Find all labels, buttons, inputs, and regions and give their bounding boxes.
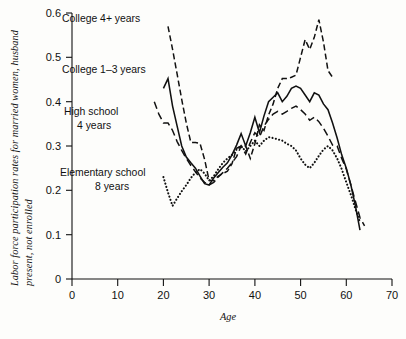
chart-container: Labor force participation rates for marr… <box>0 0 406 339</box>
x-tick-label: 20 <box>157 289 169 301</box>
x-tick-label: 0 <box>69 289 75 301</box>
y-tick-label: 0.3 <box>46 140 61 152</box>
series-label-high-school-4-years-line1: High school <box>64 106 118 117</box>
y-tick-label: 0.4 <box>46 96 61 108</box>
y-tick-labels: 0.6 0.5 0.4 0.3 0.2 0.1 0 <box>46 7 61 285</box>
y-axis-label-line2: present, not enrolled <box>23 198 34 287</box>
series-label-college-4-plus-years: College 4+ years <box>62 13 140 24</box>
series-line-college-1-3-years <box>163 79 360 231</box>
y-tick-label: 0.2 <box>46 184 61 196</box>
series-annotations: College 4+ years College 1–3 years High … <box>60 13 146 192</box>
y-tick-label: 0 <box>55 273 61 285</box>
x-tick-labels: 0 10 20 30 40 50 60 70 <box>69 289 398 301</box>
y-axis-label: Labor force participation rates for marr… <box>9 29 34 287</box>
x-tick-marks <box>72 279 392 286</box>
x-tick-label: 50 <box>294 289 306 301</box>
series-label-elementary-school-8-years-line2: 8 years <box>95 181 129 192</box>
series-label-college-1-3-years: College 1–3 years <box>62 64 146 75</box>
axes <box>72 13 392 279</box>
series-label-elementary-school-8-years-line1: Elementary school <box>60 167 145 178</box>
x-axis-label: Age <box>219 311 236 322</box>
y-tick-label: 0.6 <box>46 7 61 19</box>
x-tick-label: 40 <box>249 289 261 301</box>
series-line-elementary-school-8-years <box>163 137 360 222</box>
x-tick-label: 10 <box>112 289 124 301</box>
x-tick-label: 30 <box>203 289 215 301</box>
y-tick-marks <box>66 13 72 279</box>
x-tick-label: 70 <box>386 289 398 301</box>
y-tick-label: 0.5 <box>46 51 61 63</box>
y-axis-label-line1: Labor force participation rates for marr… <box>9 29 20 287</box>
x-tick-label: 60 <box>340 289 352 301</box>
series-label-high-school-4-years-line2: 4 years <box>77 120 111 131</box>
y-tick-label: 0.1 <box>46 229 61 241</box>
data-series-group <box>154 20 364 231</box>
line-chart: Labor force participation rates for marr… <box>0 0 406 339</box>
